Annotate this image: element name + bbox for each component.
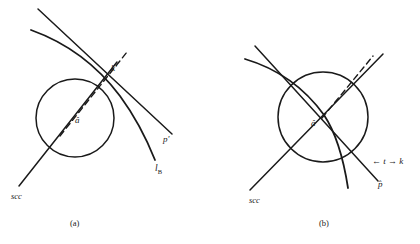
scc-line-b xyxy=(250,54,383,190)
caption-panel-a: (a) xyxy=(70,219,79,228)
figure-vector-graphics xyxy=(0,0,420,244)
label-scc-panel-a: scc xyxy=(11,192,22,201)
label-center-a-hat-panel-b: â xyxy=(311,119,316,128)
tangent-line-p-prime-a xyxy=(38,9,172,134)
transversal-line-b xyxy=(255,46,378,181)
figure-container: kʹ â scc pʹ lB (a) â scc ← t → k p̂ (b) xyxy=(0,0,420,244)
curve-p-hat-b xyxy=(245,59,348,188)
label-lb-curve-panel-a: lB xyxy=(155,164,162,175)
scc-line-a xyxy=(19,62,117,186)
panel-a-graphics xyxy=(19,9,172,186)
label-center-a-hat-panel-a: â xyxy=(75,116,80,125)
label-tangent-point-k-prime: kʹ xyxy=(111,64,117,73)
label-lb-subscript: B xyxy=(158,168,162,175)
caption-panel-b: (b) xyxy=(319,219,329,228)
label-scc-panel-b: scc xyxy=(249,196,260,205)
label-p-hat-panel-b: p̂ xyxy=(378,180,383,189)
label-p-prime-panel-a: pʹ xyxy=(163,135,169,144)
label-t-to-k-annotation: ← t → k xyxy=(372,157,403,166)
